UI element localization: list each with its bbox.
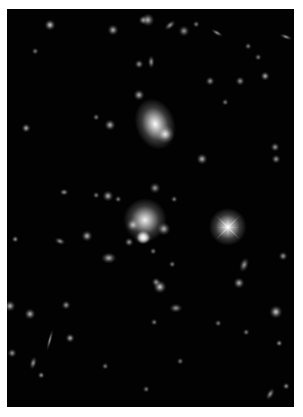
galaxy — [102, 363, 109, 370]
galaxy — [255, 54, 262, 61]
galaxy — [12, 236, 19, 243]
galaxy — [103, 191, 114, 202]
galaxy — [134, 90, 145, 101]
galaxy — [62, 301, 71, 310]
galaxy — [32, 48, 39, 55]
galaxy — [276, 340, 283, 347]
galaxy — [210, 27, 224, 38]
galaxy — [60, 189, 69, 196]
galaxy — [115, 196, 122, 203]
galaxy — [22, 124, 31, 133]
diffraction-spike — [228, 217, 229, 239]
galaxy — [157, 222, 170, 235]
galaxy — [66, 334, 75, 343]
galaxy — [108, 25, 119, 36]
galaxy — [101, 253, 116, 264]
galaxy — [243, 329, 250, 336]
galaxy — [150, 183, 161, 194]
galaxy — [279, 252, 288, 261]
galaxy — [93, 192, 100, 199]
galaxy — [236, 77, 245, 86]
deep-field-image — [7, 9, 294, 407]
galaxy — [177, 358, 184, 365]
galaxy — [8, 349, 17, 358]
galaxy — [163, 18, 177, 32]
galaxy — [283, 383, 290, 390]
galaxy — [222, 99, 229, 106]
galaxy — [148, 55, 155, 68]
galaxy — [179, 26, 190, 37]
galaxy — [54, 236, 67, 246]
galaxy — [234, 278, 245, 289]
galaxy — [193, 21, 200, 28]
galaxy — [269, 305, 282, 318]
galaxy — [237, 256, 251, 273]
galaxy — [25, 309, 36, 320]
galaxy — [45, 329, 55, 351]
galaxy — [156, 125, 174, 143]
galaxy — [272, 155, 281, 164]
galaxy — [206, 77, 215, 86]
galaxy — [245, 43, 252, 50]
galaxy — [264, 387, 276, 402]
galaxy — [171, 196, 178, 203]
galaxy — [135, 60, 144, 69]
galaxy — [279, 32, 293, 41]
galaxy — [45, 20, 56, 31]
galaxy — [105, 120, 116, 131]
galaxy — [151, 319, 158, 326]
galaxy — [38, 372, 45, 379]
galaxy — [271, 143, 280, 152]
galaxy — [93, 114, 100, 121]
galaxy — [28, 356, 38, 370]
galaxy — [82, 231, 93, 242]
galaxy — [139, 16, 148, 25]
galaxy — [261, 72, 270, 81]
galaxy — [150, 248, 157, 255]
galaxy — [152, 278, 161, 287]
galaxy — [169, 261, 176, 268]
galaxy — [197, 154, 208, 165]
galaxy — [127, 92, 182, 155]
galaxy — [215, 320, 222, 327]
galaxy — [143, 386, 150, 393]
galaxy — [7, 301, 16, 312]
galaxy — [125, 238, 134, 247]
galaxy — [169, 304, 182, 313]
